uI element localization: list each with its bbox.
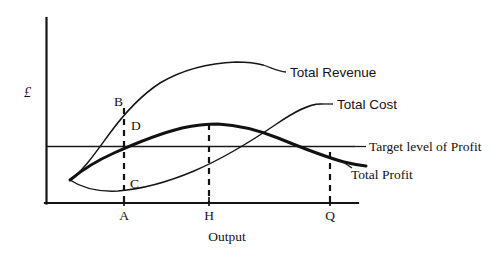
point-label-b: B (114, 94, 123, 109)
point-label-c: C (130, 176, 139, 191)
x-axis-ticks (124, 197, 330, 206)
series-label-total-profit: Total Profit (351, 167, 413, 182)
total-profit-curve (70, 124, 366, 180)
point-label-d: D (131, 118, 141, 133)
chart-figure: £ B D C A H Q Output Total Revenue Total… (0, 0, 493, 257)
x-axis-title: Output (208, 229, 246, 244)
series-label-total-cost: Total Cost (337, 97, 397, 112)
x-tick-label-h: H (204, 208, 214, 223)
x-tick-label-q: Q (325, 208, 335, 223)
series-label-total-revenue: Total Revenue (290, 65, 376, 80)
break-even-profit-chart: £ B D C A H Q Output Total Revenue Total… (0, 0, 493, 257)
total-cost-curve (70, 104, 322, 191)
leader-line-total-revenue (263, 65, 286, 72)
x-tick-label-a: A (119, 208, 129, 223)
y-axis-currency-label: £ (24, 85, 31, 100)
series-label-target-level-of-profit: Target level of Profit (369, 139, 482, 154)
axes-group (45, 18, 358, 204)
total-revenue-curve (70, 62, 263, 180)
